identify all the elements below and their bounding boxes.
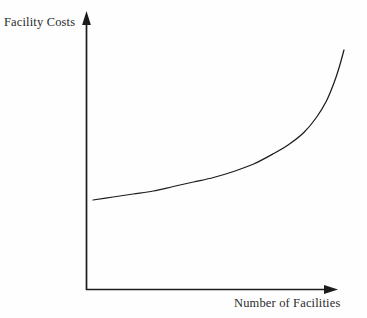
chart-plot-area (0, 0, 367, 318)
y-axis-label: Facility Costs (4, 15, 75, 30)
y-axis-arrowhead-icon (82, 11, 91, 25)
x-axis-label: Number of Facilities (234, 296, 340, 311)
x-axis-arrowhead-icon (324, 285, 338, 294)
chart-figure: Facility Costs Number of Facilities (0, 0, 367, 318)
facility-cost-curve (93, 50, 344, 200)
